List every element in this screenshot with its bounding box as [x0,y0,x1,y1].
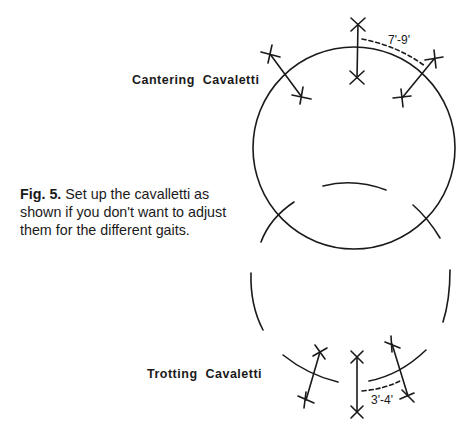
trot-dimension-line [362,381,400,391]
trot-spacing-label: 3'-4' [371,393,393,407]
figure-caption: Fig. 5. Set up the cavalletti as shown i… [20,185,252,239]
canter-label: Cantering Cavaletti [132,73,259,87]
trot-pole-left [298,345,327,408]
canter-circle [253,47,455,249]
figure-number: Fig. 5. [20,186,61,202]
figure-canvas: Cantering Cavaletti Trotting Cavaletti 7… [0,0,470,435]
trot-circle-arcs [251,183,450,382]
trot-pole-center [351,351,363,418]
trot-label: Trotting Cavaletti [147,367,262,381]
canter-spacing-label: 7'-9' [388,33,410,47]
canter-pole-center [350,18,365,84]
